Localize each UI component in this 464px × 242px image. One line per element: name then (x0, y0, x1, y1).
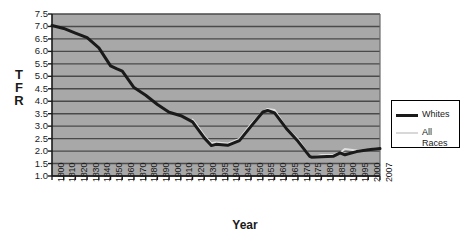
x-tick-label-1955: 1955 (266, 163, 276, 182)
x-tick-label-2000: 2000 (372, 163, 382, 182)
x-tick-label-1800: 1800 (56, 163, 66, 182)
tfr-line-chart: T F R 7.57.06.56.05.55.04.54.03.53.02.52… (0, 0, 464, 242)
x-axis-title: Year (160, 218, 330, 232)
x-tick-label-1980: 1980 (325, 163, 335, 182)
x-tick-label-1810: 1810 (67, 163, 77, 182)
x-tick-label-1990: 1990 (348, 163, 358, 182)
x-tick-label-1910: 1910 (184, 163, 194, 182)
x-tick-label-1985: 1985 (337, 163, 347, 182)
x-tick-label-1965: 1965 (290, 163, 300, 182)
x-tick-label-1975: 1975 (313, 163, 323, 182)
x-tick-label-1935: 1935 (220, 163, 230, 182)
x-tick-label-1940: 1940 (231, 163, 241, 182)
x-tick-label-1860: 1860 (126, 163, 136, 182)
x-tick-label-1995: 1995 (360, 163, 370, 182)
x-tick-label-1870: 1870 (138, 163, 148, 182)
x-tick-label-1820: 1820 (79, 163, 89, 182)
legend-swatch-all-races (396, 132, 418, 134)
x-tick-label-1945: 1945 (243, 163, 253, 182)
x-tick-label-1840: 1840 (102, 163, 112, 182)
legend-label-whites: Whites (422, 109, 450, 119)
legend-swatch-whites (396, 114, 418, 117)
x-tick-label-1850: 1850 (114, 163, 124, 182)
x-tick-label-1920: 1920 (196, 163, 206, 182)
legend-label-all-races-line1: All (422, 127, 432, 137)
legend-label-all-races-line2: Races (422, 138, 448, 148)
x-tick-label-1830: 1830 (91, 163, 101, 182)
x-tick-label-1970: 1970 (302, 163, 312, 182)
x-tick-label-1950: 1950 (255, 163, 265, 182)
x-tick-label-1880: 1880 (149, 163, 159, 182)
chart-legend: Whites All Races (391, 100, 460, 148)
x-tick-label-1960: 1960 (278, 163, 288, 182)
x-tick-label-1900: 1900 (173, 163, 183, 182)
x-tick-label-1930: 1930 (208, 163, 218, 182)
x-tick-label-2007: 2007 (384, 163, 394, 182)
x-tick-label-1890: 1890 (161, 163, 171, 182)
